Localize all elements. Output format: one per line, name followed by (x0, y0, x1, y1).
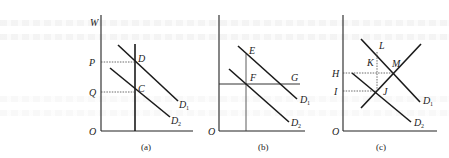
curve-sub-d1: 1 (430, 101, 433, 107)
point-label-m: M (391, 58, 401, 69)
demand-curve-d1 (118, 45, 178, 101)
point-label-g: G (291, 72, 298, 83)
caption-b: (b) (258, 142, 269, 152)
price-label-i: I (333, 86, 338, 97)
curve-sub-d2: 2 (298, 123, 301, 129)
demand-curve-d2 (352, 73, 411, 122)
panel-b: O E F G D 1 D 2 (b) (208, 15, 310, 152)
caption-c: (c) (376, 142, 386, 152)
curve-sub-d1: 1 (307, 100, 310, 106)
curve-sub-d2: 2 (421, 123, 424, 129)
origin-label: O (208, 126, 215, 137)
point-label-f: F (249, 72, 257, 83)
price-label-q: Q (89, 87, 97, 98)
diagram-canvas: W O P Q D C D 1 D 2 (a) O (0, 0, 449, 158)
origin-label: O (332, 126, 339, 137)
point-label-l: L (378, 40, 385, 51)
panel-a: W O P Q D C D 1 D 2 (a) (88, 15, 193, 152)
y-axis-label: W (90, 17, 100, 28)
demand-curve-d1 (361, 39, 420, 102)
demand-curve-d1 (238, 46, 297, 99)
supply-curve (361, 44, 421, 108)
demand-curve-d2 (229, 69, 289, 122)
point-label-e: E (248, 45, 255, 56)
caption-a: (a) (141, 142, 151, 152)
point-label-c: C (138, 83, 145, 94)
origin-label: O (89, 126, 96, 137)
curve-sub-d2: 2 (178, 121, 181, 127)
price-label-p: P (88, 57, 95, 68)
panel-c: O H I L K M J D 1 D 2 (c) (331, 15, 437, 152)
point-label-k: K (366, 57, 375, 68)
price-label-h: H (331, 68, 340, 79)
point-label-d: D (137, 53, 146, 64)
point-label-j: J (383, 86, 388, 97)
curve-sub-d1: 1 (186, 105, 189, 111)
